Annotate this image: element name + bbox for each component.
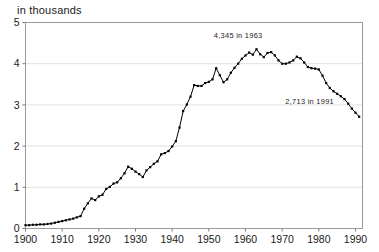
data-point-marker bbox=[347, 103, 349, 105]
data-point-marker bbox=[131, 168, 133, 170]
data-point-marker bbox=[24, 224, 26, 226]
data-point-marker bbox=[123, 172, 125, 174]
data-point-marker bbox=[266, 52, 268, 54]
data-point-marker bbox=[193, 84, 195, 86]
data-point-marker bbox=[314, 68, 316, 70]
data-point-marker bbox=[105, 188, 107, 190]
data-point-marker bbox=[281, 63, 283, 65]
y-tick-label: 3 bbox=[14, 99, 20, 111]
gridlines bbox=[26, 64, 363, 188]
data-point-markers bbox=[24, 48, 360, 226]
y-tick-label: 2 bbox=[14, 140, 20, 152]
data-point-marker bbox=[222, 81, 224, 83]
data-point-marker bbox=[46, 223, 48, 225]
y-tick-label: 1 bbox=[14, 181, 20, 193]
data-point-marker bbox=[288, 61, 290, 63]
data-point-marker bbox=[189, 96, 191, 98]
data-point-marker bbox=[325, 82, 327, 84]
data-point-marker bbox=[116, 181, 118, 183]
data-point-marker bbox=[79, 215, 81, 217]
data-point-marker bbox=[237, 63, 239, 65]
data-point-marker bbox=[54, 222, 56, 224]
data-point-marker bbox=[211, 78, 213, 80]
data-point-marker bbox=[43, 223, 45, 225]
data-point-marker bbox=[134, 171, 136, 173]
data-point-marker bbox=[57, 221, 59, 223]
data-point-marker bbox=[296, 56, 298, 58]
data-point-marker bbox=[186, 103, 188, 105]
data-point-marker bbox=[307, 66, 309, 68]
birth-rate-line-chart: in thousands 012345 19001910192019301940… bbox=[0, 0, 379, 252]
x-tick-label: 1920 bbox=[87, 233, 111, 245]
data-point-marker bbox=[263, 56, 265, 58]
data-point-marker bbox=[226, 78, 228, 80]
data-point-marker bbox=[310, 67, 312, 69]
data-point-marker bbox=[277, 59, 279, 61]
data-point-marker bbox=[274, 54, 276, 56]
x-tick-label: 1900 bbox=[14, 233, 38, 245]
x-tick-label: 1980 bbox=[307, 233, 331, 245]
data-point-marker bbox=[83, 208, 85, 210]
data-point-marker bbox=[28, 224, 30, 226]
data-point-marker bbox=[175, 140, 177, 142]
data-point-marker bbox=[318, 68, 320, 70]
data-point-marker bbox=[255, 48, 257, 50]
x-tick-label: 1950 bbox=[197, 233, 221, 245]
y-tick-label: 5 bbox=[14, 16, 20, 28]
data-point-marker bbox=[200, 85, 202, 87]
data-point-marker bbox=[215, 67, 217, 69]
plot-frame bbox=[26, 23, 363, 229]
data-point-marker bbox=[241, 58, 243, 60]
data-point-marker bbox=[164, 152, 166, 154]
data-point-marker bbox=[160, 153, 162, 155]
data-point-marker bbox=[197, 85, 199, 87]
x-axis-tick-labels: 1900191019201930194019501960197019801990 bbox=[14, 233, 368, 245]
data-point-marker bbox=[101, 194, 103, 196]
data-point-marker bbox=[285, 63, 287, 65]
data-point-marker bbox=[153, 163, 155, 165]
data-point-marker bbox=[270, 51, 272, 53]
series-polyline bbox=[26, 49, 360, 225]
data-point-marker bbox=[178, 126, 180, 128]
x-tick-label: 1990 bbox=[344, 233, 368, 245]
data-point-marker bbox=[340, 95, 342, 97]
data-annotation: 2,713 in 1991 bbox=[285, 97, 334, 106]
data-point-marker bbox=[65, 219, 67, 221]
data-point-marker bbox=[248, 51, 250, 53]
data-point-marker bbox=[332, 90, 334, 92]
data-point-marker bbox=[321, 75, 323, 77]
data-point-marker bbox=[138, 173, 140, 175]
data-point-marker bbox=[292, 59, 294, 61]
data-point-marker bbox=[50, 222, 52, 224]
data-point-marker bbox=[171, 145, 173, 147]
data-point-marker bbox=[120, 177, 122, 179]
data-point-marker bbox=[351, 108, 353, 110]
data-point-marker bbox=[39, 223, 41, 225]
data-point-marker bbox=[354, 112, 356, 114]
x-tick-label: 1940 bbox=[160, 233, 184, 245]
data-point-marker bbox=[259, 53, 261, 55]
data-point-marker bbox=[244, 54, 246, 56]
data-point-marker bbox=[112, 182, 114, 184]
data-point-marker bbox=[343, 98, 345, 100]
data-point-marker bbox=[303, 61, 305, 63]
data-point-marker bbox=[233, 67, 235, 69]
data-point-marker bbox=[35, 224, 37, 226]
data-annotation: 4,345 in 1963 bbox=[214, 31, 263, 40]
data-point-marker bbox=[230, 72, 232, 74]
data-point-marker bbox=[90, 197, 92, 199]
data-point-marker bbox=[127, 166, 129, 168]
data-point-marker bbox=[167, 150, 169, 152]
data-point-marker bbox=[142, 176, 144, 178]
x-tick-label: 1970 bbox=[270, 233, 294, 245]
data-point-marker bbox=[72, 218, 74, 220]
data-point-marker bbox=[94, 199, 96, 201]
plot-area: 012345 190019101920193019401950196019701… bbox=[0, 0, 379, 252]
data-point-marker bbox=[68, 218, 70, 220]
data-point-marker bbox=[336, 93, 338, 95]
x-tick-label: 1910 bbox=[50, 233, 74, 245]
data-point-marker bbox=[252, 54, 254, 56]
data-point-marker bbox=[98, 195, 100, 197]
data-point-marker bbox=[61, 220, 63, 222]
frame-rect bbox=[26, 23, 363, 229]
